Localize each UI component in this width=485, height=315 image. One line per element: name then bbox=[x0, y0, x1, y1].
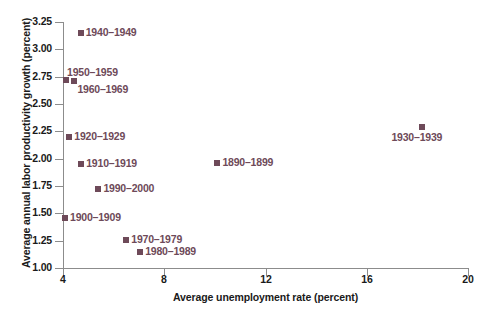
y-tick-label: 1.25 bbox=[4, 234, 52, 246]
data-point-label: 1990–2000 bbox=[103, 182, 154, 194]
data-point-label: 1980–1989 bbox=[145, 245, 196, 257]
y-axis-line bbox=[63, 22, 64, 269]
y-tick-label: 2.00 bbox=[4, 152, 52, 164]
data-point-label: 1930–1939 bbox=[391, 131, 442, 143]
y-tick-mark bbox=[55, 186, 63, 187]
y-tick-label: 1.75 bbox=[4, 179, 52, 191]
y-tick-mark bbox=[55, 104, 63, 105]
y-tick-mark bbox=[55, 49, 63, 50]
y-tick-label: 3.00 bbox=[4, 42, 52, 54]
y-tick-label: 1.50 bbox=[4, 206, 52, 218]
data-point-marker bbox=[419, 124, 425, 130]
y-tick-label: 2.50 bbox=[4, 97, 52, 109]
x-axis-title: Average unemployment rate (percent) bbox=[63, 291, 468, 303]
data-point-marker bbox=[123, 237, 129, 243]
x-tick-label: 4 bbox=[43, 273, 83, 285]
x-tick-label: 8 bbox=[144, 273, 184, 285]
y-tick-label: 3.25 bbox=[4, 15, 52, 27]
data-point-label: 1920–1929 bbox=[74, 130, 125, 142]
scatter-chart: Average annual labor productivity growth… bbox=[0, 0, 485, 315]
data-point-label: 1940–1949 bbox=[86, 26, 137, 38]
data-point-marker bbox=[95, 186, 101, 192]
x-tick-label: 16 bbox=[347, 273, 387, 285]
y-tick-label: 2.75 bbox=[4, 70, 52, 82]
y-tick-mark bbox=[55, 131, 63, 132]
data-point-marker bbox=[66, 134, 72, 140]
data-point-marker bbox=[214, 160, 220, 166]
data-point-label: 1970–1979 bbox=[131, 233, 182, 245]
data-point-label: 1910–1919 bbox=[86, 157, 137, 169]
y-tick-label: 1.00 bbox=[4, 261, 52, 273]
data-point-marker bbox=[78, 161, 84, 167]
data-point-label: 1960–1969 bbox=[77, 83, 128, 95]
data-point-label: 1900–1909 bbox=[70, 211, 121, 223]
data-point-marker bbox=[78, 30, 84, 36]
data-point-label: 1890–1899 bbox=[222, 156, 273, 168]
y-tick-mark bbox=[55, 77, 63, 78]
x-tick-label: 20 bbox=[448, 273, 485, 285]
y-tick-mark bbox=[55, 159, 63, 160]
data-point-label: 1950–1959 bbox=[67, 66, 118, 78]
y-tick-mark bbox=[55, 22, 63, 23]
data-point-marker bbox=[137, 249, 143, 255]
y-tick-mark bbox=[55, 241, 63, 242]
y-tick-mark bbox=[55, 268, 63, 269]
x-tick-label: 12 bbox=[246, 273, 286, 285]
y-tick-label: 2.25 bbox=[4, 124, 52, 136]
data-point-marker bbox=[62, 215, 68, 221]
